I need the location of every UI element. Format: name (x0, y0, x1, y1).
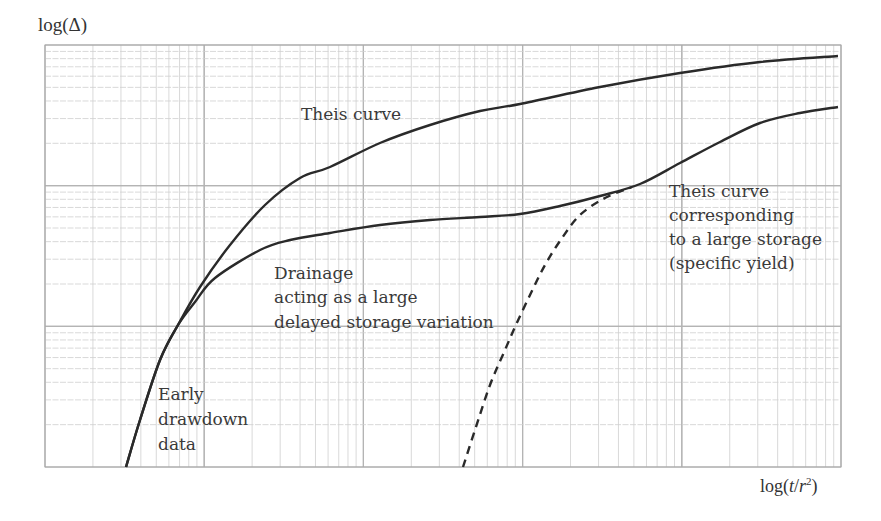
drainage-line-2: acting as a large (274, 287, 418, 307)
specific-yield-line-1: Theis curve (669, 181, 769, 201)
specific-yield-line-4: (specific yield) (669, 253, 795, 273)
theis-curve-label: Theis curve (301, 104, 401, 124)
drainage-line-3: delayed storage variation (274, 312, 494, 332)
specific-yield-line-2: corresponding (669, 205, 794, 225)
loglog-plot: log(Δ) log(t/r2) Theis curve Drainage ac… (0, 0, 881, 521)
early-line-1: Early (158, 384, 204, 404)
drainage-line-1: Drainage (274, 263, 353, 283)
drawdown-loglog-figure: log(Δ) log(t/r2) Theis curve Drainage ac… (0, 0, 881, 521)
y-axis-label: log(Δ) (38, 14, 87, 36)
early-line-3: data (158, 434, 196, 454)
specific-yield-line-3: to a large storage (669, 229, 822, 249)
early-line-2: drawdown (158, 409, 248, 429)
